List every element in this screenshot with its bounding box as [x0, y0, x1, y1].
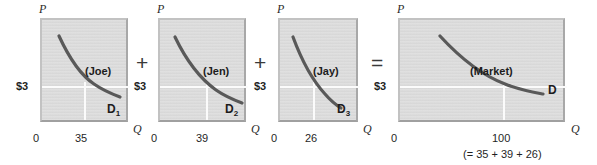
quantity-axis-label-joe: Q [133, 123, 142, 135]
price-tick-market: $3 [374, 81, 386, 92]
price-axis-label-jay: P [277, 3, 284, 15]
price-axis-label-market: P [397, 3, 404, 15]
price-gridline-joe [42, 86, 130, 88]
quantity-axis-label-jen: Q [251, 123, 260, 135]
quantity-sum-note: (= 35 + 39 + 26) [463, 149, 542, 160]
origin-label-jen: 0 [151, 133, 157, 144]
origin-label-market: 0 [391, 133, 397, 144]
market-demand-figure: P (Joe) D1 $3 Q 0 35 + P (Jen) D2 $3 Q [0, 0, 597, 165]
origin-label-joe: 0 [33, 133, 39, 144]
price-tick-jay: $3 [254, 81, 266, 92]
quantity-tick-jay: 26 [305, 133, 317, 144]
price-gridline-jen [160, 86, 248, 88]
quantity-tick-market: 100 [492, 133, 510, 144]
price-gridline-jay [280, 86, 360, 88]
curve-name-jen: (Jen) [203, 66, 229, 77]
quantity-gridline-joe [84, 82, 86, 120]
quantity-tick-jen: 39 [196, 133, 208, 144]
price-tick-jen: $3 [134, 81, 146, 92]
quantity-gridline-jen [206, 82, 208, 120]
quantity-axis-label-jay: Q [363, 123, 372, 135]
quantity-gridline-jay [313, 82, 315, 120]
curve-name-jay: (Jay) [313, 66, 339, 77]
quantity-tick-joe: 35 [75, 133, 87, 144]
plus-operator-1: + [136, 52, 148, 73]
price-axis-label-jen: P [157, 3, 164, 15]
price-axis-label-joe: P [39, 3, 46, 15]
plus-operator-2: + [254, 52, 266, 73]
curve-id-market: D [548, 84, 557, 99]
equals-operator: = [371, 52, 383, 73]
curve-id-joe: D1 [107, 103, 120, 118]
price-tick-joe: $3 [16, 81, 28, 92]
curve-name-joe: (Joe) [85, 66, 111, 77]
curve-name-market: (Market) [470, 66, 513, 77]
curve-id-jen: D2 [225, 103, 238, 118]
origin-label-jay: 0 [271, 133, 277, 144]
price-gridline-market [400, 86, 567, 88]
quantity-axis-label-market: Q [571, 123, 580, 135]
curve-id-jay: D3 [337, 103, 350, 118]
quantity-gridline-market [503, 82, 505, 120]
